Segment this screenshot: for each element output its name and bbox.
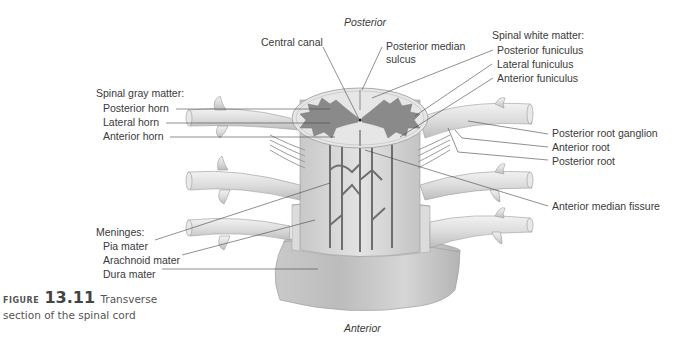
label-pia-mater: Pia mater bbox=[103, 240, 148, 253]
gray-matter-heading: Spinal gray matter: bbox=[96, 87, 184, 100]
label-anterior-horn: Anterior horn bbox=[103, 130, 164, 143]
label-posterior-median-sulcus-2: sulcus bbox=[386, 53, 416, 66]
orientation-anterior: Anterior bbox=[344, 322, 381, 335]
label-central-canal: Central canal bbox=[261, 36, 323, 49]
label-anterior-root: Anterior root bbox=[552, 141, 610, 154]
label-posterior-median-sulcus-1: Posterior median bbox=[386, 40, 465, 53]
caption-number: 13.11 bbox=[44, 288, 95, 307]
label-posterior-funiculus: Posterior funiculus bbox=[497, 44, 583, 57]
spinal-nerves-left bbox=[186, 96, 300, 250]
label-lateral-horn: Lateral horn bbox=[103, 116, 159, 129]
meninges-heading: Meninges: bbox=[96, 226, 144, 239]
spinal-nerves-right bbox=[420, 98, 533, 248]
orientation-posterior: Posterior bbox=[344, 16, 386, 29]
label-lateral-funiculus: Lateral funiculus bbox=[497, 58, 573, 71]
label-anterior-median-fissure: Anterior median fissure bbox=[552, 200, 660, 213]
label-arachnoid-mater: Arachnoid mater bbox=[103, 254, 180, 267]
caption-title-line1: Transverse bbox=[100, 293, 157, 305]
white-matter-heading: Spinal white matter: bbox=[492, 29, 584, 42]
label-posterior-root-ganglion: Posterior root ganglion bbox=[552, 127, 658, 140]
label-anterior-funiculus: Anterior funiculus bbox=[497, 72, 578, 85]
label-dura-mater: Dura mater bbox=[103, 268, 156, 281]
label-posterior-horn: Posterior horn bbox=[103, 102, 169, 115]
figure-caption: FIGURE 13.11 Transverse section of the s… bbox=[3, 290, 157, 323]
caption-prefix: FIGURE bbox=[3, 296, 39, 305]
label-posterior-root: Posterior root bbox=[552, 155, 615, 168]
caption-title-line2: section of the spinal cord bbox=[3, 308, 157, 323]
cross-section bbox=[292, 88, 428, 148]
